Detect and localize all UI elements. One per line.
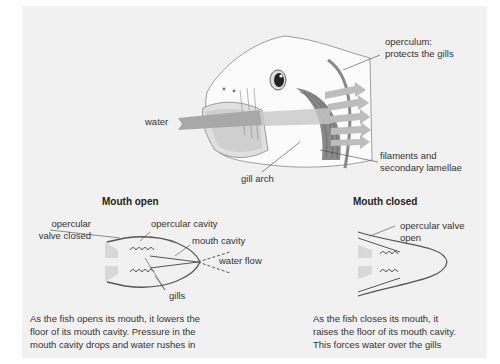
label-gill-arch: gill arch	[241, 173, 274, 185]
caption-line: As the fish opens its mouth, it lowers t…	[30, 312, 200, 325]
label-line: valve closed	[38, 230, 91, 242]
label-opercular-valve-open: opercular valve open	[400, 220, 464, 244]
caption-line: mouth cavity drops and water rushes in	[30, 338, 200, 351]
mouth-open-title: Mouth open	[102, 196, 159, 207]
mouth-closed-caption: As the fish closes its mouth, it raises …	[313, 312, 456, 351]
label-mouth-cavity: mouth cavity	[192, 235, 245, 247]
mouth-open-caption: As the fish opens its mouth, it lowers t…	[30, 312, 200, 351]
caption-line: As the fish closes its mouth, it	[313, 312, 456, 325]
caption-line: This forces water over the gills	[313, 338, 456, 351]
label-filaments: filaments and secondary lamellae	[380, 150, 462, 174]
caption-line: raises the floor of its mouth cavity.	[313, 325, 456, 338]
label-line: opercular valve	[400, 220, 464, 232]
label-gills: gills	[169, 290, 185, 302]
label-water: water	[145, 116, 168, 128]
label-operculum: operculum: protects the gills	[385, 36, 454, 60]
label-line: filaments and	[380, 150, 462, 162]
label-line: operculum:	[385, 36, 454, 48]
fish-head	[178, 36, 380, 172]
caption-line: floor of its mouth cavity. Pressure in t…	[30, 325, 200, 338]
label-opercular-valve-closed: opercular valve closed	[38, 218, 91, 242]
label-line: secondary lamellae	[380, 162, 462, 174]
mouth-closed-title: Mouth closed	[353, 196, 417, 207]
label-line: opercular	[38, 218, 91, 230]
label-line: protects the gills	[385, 48, 454, 60]
label-line: open	[400, 232, 464, 244]
label-opercular-cavity: opercular cavity	[151, 218, 218, 230]
label-water-flow: water flow	[219, 255, 262, 267]
